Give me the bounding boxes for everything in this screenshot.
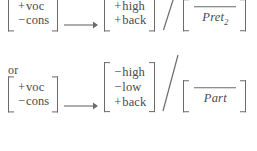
rule-1-input-matrix: + voc − cons	[8, 0, 58, 31]
rule-1-environment-label-text: Pret	[202, 11, 224, 25]
rule-1-output-matrix: + high + back	[104, 0, 155, 31]
rule-2-environment-slash-icon	[161, 54, 181, 112]
feature-name: cons	[26, 95, 49, 109]
feature-name: high	[122, 0, 145, 13]
rule-2-input-matrix: + voc − cons	[8, 77, 58, 112]
feature-sign: +	[114, 14, 122, 28]
feature-sign: +	[114, 0, 122, 13]
feature-sign: +	[18, 80, 26, 94]
feature-sign: −	[114, 66, 122, 80]
phonological-rule-figure: + voc − cons + high + back	[0, 0, 257, 151]
feature-row: − cons	[18, 94, 49, 109]
feature-row: + back	[114, 94, 146, 109]
feature-sign: −	[18, 95, 26, 109]
rule-2-environment-bracket: Part	[183, 81, 246, 113]
feature-row: − high	[114, 65, 146, 80]
rule-1-focus-bar	[194, 7, 236, 8]
feature-name: cons	[26, 14, 49, 28]
feature-name: voc	[26, 0, 44, 13]
feature-sign: +	[114, 95, 122, 109]
feature-row: − low	[114, 80, 146, 95]
rule-1-environment-label-subscript: 2	[224, 18, 228, 27]
feature-row: + voc	[18, 80, 49, 95]
rule-2-environment-label-text: Part	[204, 92, 227, 106]
disjunction-connective: or	[8, 63, 18, 78]
feature-row: + high	[114, 0, 146, 13]
rule-1-environment-bracket: Pret2	[183, 0, 246, 31]
rule-1-rightwards-arrow-icon	[64, 19, 98, 31]
feature-sign: −	[114, 80, 122, 94]
feature-row: − cons	[18, 13, 49, 28]
feature-row: + back	[114, 13, 146, 28]
feature-name: back	[122, 95, 146, 109]
rule-2-environment-label: Part	[204, 92, 227, 109]
rule-2-focus-bar	[194, 88, 236, 89]
feature-row: + voc	[18, 0, 49, 13]
rule-1-environment-label: Pret2	[202, 11, 228, 28]
rule-2-output-matrix: − high − low + back	[104, 62, 155, 112]
feature-name: back	[122, 14, 146, 28]
rule-1-environment-slash-icon	[161, 0, 181, 31]
feature-name: high	[122, 66, 145, 80]
feature-name: low	[122, 80, 141, 94]
feature-name: voc	[26, 80, 44, 94]
feature-sign: −	[18, 14, 26, 28]
rule-2-rightwards-arrow-icon	[64, 100, 98, 112]
feature-sign: +	[18, 0, 26, 13]
